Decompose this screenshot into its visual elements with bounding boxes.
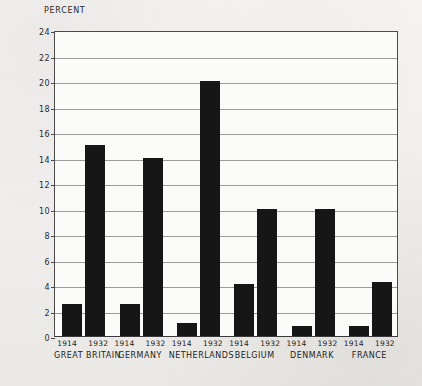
y-axis-tick-label: 0	[45, 334, 51, 343]
x-axis-country-label: GERMANY	[111, 351, 168, 360]
y-axis-tick-mark	[51, 160, 55, 161]
x-axis-year-label: 1914	[57, 339, 77, 348]
x-axis-year-label: 1914	[344, 339, 364, 348]
bar-denmark-1914	[292, 326, 312, 336]
y-axis-tick-label: 20	[39, 79, 50, 88]
y-axis-tick-mark	[51, 58, 55, 59]
x-axis-year-label: 1932	[318, 339, 338, 348]
bar-france-1914	[349, 326, 369, 336]
x-axis-group-france: 19141932FRANCE	[341, 339, 398, 360]
y-axis-tick-label: 12	[39, 181, 50, 190]
x-axis-labels: 19141932GREAT BRITAIN19141932GERMANY1914…	[54, 339, 398, 383]
x-axis-year-label: 1932	[203, 339, 223, 348]
bar-great-britain-1914	[62, 304, 82, 336]
bar-belgium-1932	[257, 209, 277, 337]
y-axis-tick-label: 4	[45, 283, 51, 292]
x-axis-year-label: 1914	[172, 339, 192, 348]
x-axis-year-label: 1932	[88, 339, 108, 348]
y-axis-tick-mark	[51, 83, 55, 84]
x-axis-year-label: 1932	[260, 339, 280, 348]
x-axis-year-label: 1914	[286, 339, 306, 348]
x-axis-country-label: DENMARK	[283, 351, 340, 360]
gridline	[55, 160, 397, 161]
gridline	[55, 58, 397, 59]
y-axis-tick-label: 16	[39, 130, 50, 139]
y-axis-tick-mark	[51, 32, 55, 33]
plot-area: 024681012141618202224	[54, 31, 398, 337]
x-axis-group-germany: 19141932GERMANY	[111, 339, 168, 360]
y-axis-tick-label: 8	[45, 232, 51, 241]
bar-belgium-1914	[234, 284, 254, 336]
bar-germany-1932	[143, 158, 163, 337]
y-axis-tick-mark	[51, 313, 55, 314]
x-axis-group-great-britain: 19141932GREAT BRITAIN	[54, 339, 111, 360]
x-axis-country-label: FRANCE	[341, 351, 398, 360]
y-axis-tick-mark	[51, 185, 55, 186]
x-axis-country-label: NETHERLANDS	[169, 351, 226, 360]
bar-france-1932	[372, 282, 392, 336]
y-axis-tick-label: 2	[45, 308, 51, 317]
y-axis-tick-mark	[51, 134, 55, 135]
x-axis-group-belgium: 19141932BELGIUM	[226, 339, 283, 360]
y-axis-tick-label: 14	[39, 155, 50, 164]
bar-chart: PERCENT 024681012141618202224 19141932GR…	[0, 0, 422, 386]
bar-germany-1914	[120, 304, 140, 336]
gridline	[55, 287, 397, 288]
y-axis-tick-label: 18	[39, 104, 50, 113]
y-axis-tick-label: 6	[45, 257, 51, 266]
x-axis-country-label: GREAT BRITAIN	[54, 351, 111, 360]
x-axis-group-netherlands: 19141932NETHERLANDS	[169, 339, 226, 360]
gridline	[55, 313, 397, 314]
x-axis-year-label: 1914	[114, 339, 134, 348]
gridline	[55, 262, 397, 263]
y-axis-tick-mark	[51, 287, 55, 288]
y-axis-tick-mark	[51, 109, 55, 110]
gridline	[55, 109, 397, 110]
bar-netherlands-1914	[177, 323, 197, 336]
gridline	[55, 211, 397, 212]
y-axis-tick-mark	[51, 211, 55, 212]
x-axis-year-label: 1914	[229, 339, 249, 348]
y-axis-tick-label: 24	[39, 28, 50, 37]
bar-great-britain-1932	[85, 145, 105, 336]
gridline	[55, 236, 397, 237]
x-axis-group-denmark: 19141932DENMARK	[283, 339, 340, 360]
y-axis-tick-label: 22	[39, 53, 50, 62]
y-axis-tick-mark	[51, 236, 55, 237]
gridline	[55, 83, 397, 84]
bar-netherlands-1932	[200, 81, 220, 336]
x-axis-year-label: 1932	[375, 339, 395, 348]
bar-denmark-1932	[315, 209, 335, 337]
y-axis-tick-label: 10	[39, 206, 50, 215]
x-axis-year-label: 1932	[146, 339, 166, 348]
gridline	[55, 185, 397, 186]
x-axis-country-label: BELGIUM	[226, 351, 283, 360]
y-axis-tick-mark	[51, 262, 55, 263]
y-axis-title: PERCENT	[44, 6, 85, 15]
gridline	[55, 134, 397, 135]
